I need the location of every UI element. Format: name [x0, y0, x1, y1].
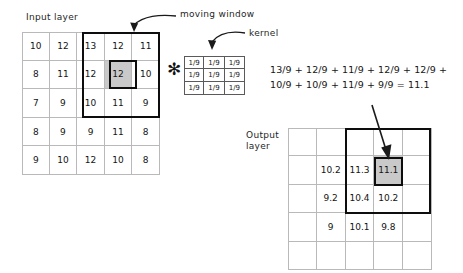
grid-cell	[403, 128, 432, 156]
grid-cell	[288, 156, 317, 184]
kernel-arrow	[208, 32, 245, 50]
grid-cell: 10.1	[346, 213, 375, 241]
grid-cell: 1/9	[204, 56, 224, 69]
grid-cell: 11	[132, 32, 160, 61]
grid-cell: 12	[105, 61, 133, 90]
grid-cell: 1/9	[204, 69, 224, 82]
grid-cell: 9	[50, 118, 78, 147]
grid-cell: 9	[50, 89, 78, 118]
kernel-grid: 1/91/91/91/91/91/91/91/91/9	[184, 56, 245, 95]
grid-cell: 10	[132, 61, 160, 90]
input-grid: 1012131211811121210791011989911891012108	[22, 32, 160, 175]
grid-cell	[403, 185, 432, 213]
grid-cell: 12	[50, 32, 78, 61]
grid-cell	[317, 242, 346, 270]
grid-cell: 10.2	[374, 185, 403, 213]
grid-cell: 11	[50, 61, 78, 90]
grid-cell	[374, 242, 403, 270]
kernel-label: kernel	[249, 28, 279, 39]
grid-cell	[403, 242, 432, 270]
grid-cell: 8	[22, 118, 50, 147]
grid-cell: 12	[77, 61, 105, 90]
grid-cell: 9	[22, 146, 50, 175]
grid-cell: 11	[105, 118, 133, 147]
grid-cell: 9	[317, 213, 346, 241]
grid-cell: 11.3	[346, 156, 375, 184]
grid-cell: 9	[77, 118, 105, 147]
grid-cell: 1/9	[204, 82, 224, 95]
grid-cell: 9.8	[374, 213, 403, 241]
grid-cell: 9	[132, 89, 160, 118]
grid-cell: 1/9	[225, 56, 245, 69]
grid-cell: 10	[22, 32, 50, 61]
grid-cell	[346, 128, 375, 156]
convolution-operator: ✻	[167, 61, 182, 78]
output-layer-label: Output layer	[246, 130, 279, 152]
grid-cell: 10	[77, 89, 105, 118]
grid-cell: 1/9	[225, 69, 245, 82]
grid-cell	[288, 185, 317, 213]
grid-cell	[374, 128, 403, 156]
grid-cell: 10	[105, 146, 133, 175]
moving-window-arrow	[130, 15, 176, 32]
grid-cell: 7	[22, 89, 50, 118]
grid-cell: 11	[105, 89, 133, 118]
grid-cell: 11.1	[374, 156, 403, 184]
moving-window-label: moving window	[180, 9, 254, 20]
grid-cell: 10.2	[317, 156, 346, 184]
grid-cell	[317, 128, 346, 156]
grid-cell: 10.4	[346, 185, 375, 213]
grid-cell: 1/9	[184, 69, 204, 82]
grid-cell: 13	[77, 32, 105, 61]
grid-cell: 12	[105, 32, 133, 61]
input-layer-label: Input layer	[26, 12, 78, 23]
grid-cell: 9.2	[317, 185, 346, 213]
grid-cell: 10	[50, 146, 78, 175]
grid-cell	[288, 242, 317, 270]
grid-cell	[403, 213, 432, 241]
convolution-equation: 13/9 + 12/9 + 11/9 + 12/9 + 12/9 + 10/9 …	[270, 62, 447, 92]
grid-cell	[403, 156, 432, 184]
grid-cell: 8	[22, 61, 50, 90]
grid-cell: 1/9	[184, 82, 204, 95]
grid-cell	[346, 242, 375, 270]
grid-cell: 8	[132, 118, 160, 147]
grid-cell: 1/9	[184, 56, 204, 69]
output-grid: 10.211.311.19.210.410.2910.19.8	[288, 128, 432, 270]
grid-cell	[288, 128, 317, 156]
convolution-diagram: Input layer 1012131211811121210791011989…	[0, 0, 463, 273]
grid-cell: 12	[77, 146, 105, 175]
grid-cell: 1/9	[225, 82, 245, 95]
grid-cell: 8	[132, 146, 160, 175]
grid-cell	[288, 213, 317, 241]
